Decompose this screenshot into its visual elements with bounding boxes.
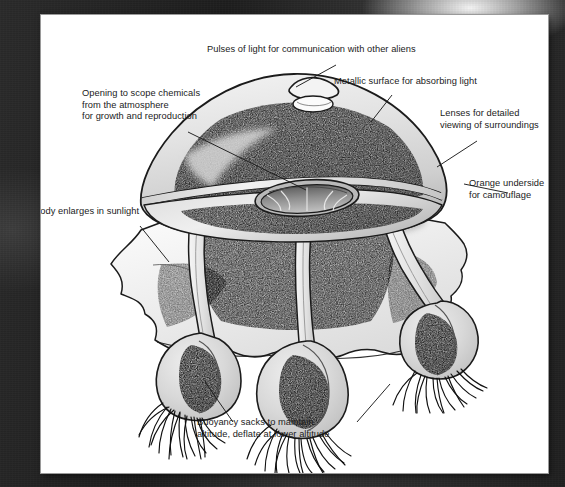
buoyancy-sack-right [400, 301, 478, 379]
label-buoyancy-sacks: Buoyancy sacks to maintain altitude, def… [197, 417, 330, 440]
label-opening-to-scope-chemicals: Opening to scope chemicals from the atmo… [82, 88, 200, 123]
label-pulses-of-light: Pulses of light for communication with o… [207, 44, 416, 56]
leader-lenses [437, 141, 477, 167]
leader-buoyancy-middle [357, 384, 390, 422]
photo-scene: Pulses of light for communication with o… [0, 0, 565, 487]
light-pulse-organs [289, 78, 339, 112]
label-orange-underside: Orange underside for camouflage [469, 178, 544, 201]
label-body-enlarges-in-sunlight: Body enlarges in sunlight [41, 206, 139, 218]
label-metallic-surface: Metallic surface for absorbing light [334, 76, 477, 88]
label-lenses-for-viewing: Lenses for detailed viewing of surroundi… [440, 108, 539, 131]
illustration-page: Pulses of light for communication with o… [41, 15, 548, 473]
